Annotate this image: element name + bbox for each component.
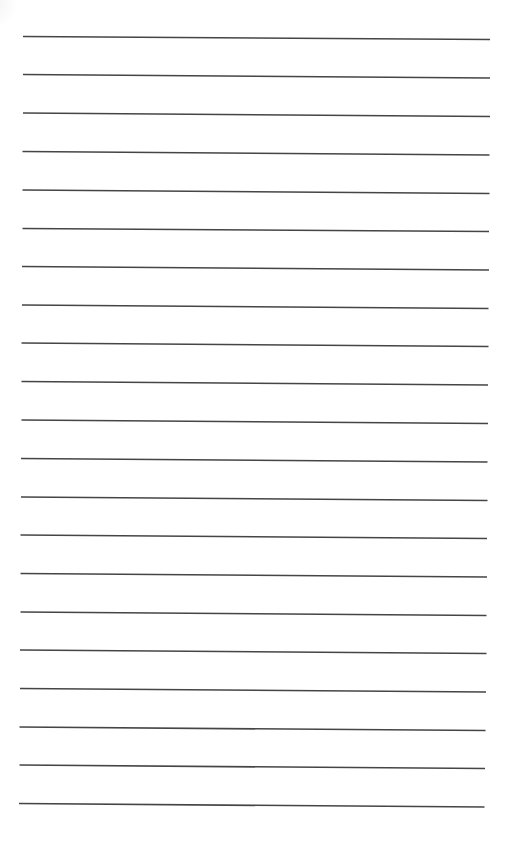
ruled-line [22, 267, 489, 271]
ruled-line [21, 535, 488, 539]
ruled-line [22, 382, 489, 386]
ruled-line [21, 612, 487, 616]
ruled-line [19, 804, 485, 808]
ruled-line [22, 305, 489, 309]
lined-paper-page [0, 0, 508, 847]
ruled-line [21, 459, 488, 463]
ruled-lines [0, 0, 508, 847]
ruled-line [21, 574, 488, 578]
ruled-line [23, 75, 490, 79]
ruled-line [22, 343, 489, 347]
ruled-line [23, 113, 490, 117]
ruled-line [23, 37, 490, 40]
ruled-line [20, 727, 486, 731]
ruled-line [21, 497, 488, 501]
ruled-line [23, 190, 490, 194]
ruled-line [20, 650, 487, 654]
ruled-line [20, 689, 486, 693]
ruled-line [23, 152, 490, 156]
ruled-line [20, 765, 486, 769]
ruled-line [22, 420, 489, 424]
ruled-line [23, 229, 490, 232]
